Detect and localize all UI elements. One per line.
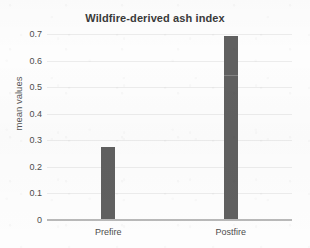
y-tick-label: 0 (37, 215, 42, 225)
y-tick-label: 0.1 (29, 188, 42, 198)
y-axis-title: mean values (13, 64, 24, 144)
gridline (47, 220, 292, 221)
chart-figure: Wildfire-derived ash index mean values 0… (0, 0, 310, 248)
gridline (47, 87, 292, 88)
plot-area: 00.10.20.30.40.50.60.7PrefirePostfire (47, 34, 292, 220)
y-tick-label: 0.7 (29, 29, 42, 39)
gridline (47, 114, 292, 115)
gridline (47, 193, 292, 194)
y-tick-label: 0.3 (29, 135, 42, 145)
chart-title: Wildfire-derived ash index (0, 12, 310, 24)
gridline (47, 167, 292, 168)
gridline (47, 140, 292, 141)
x-tick-label: Postfire (215, 227, 246, 237)
x-tick-label: Prefire (95, 227, 122, 237)
bar[interactable] (101, 147, 115, 219)
bar[interactable] (224, 36, 238, 219)
gridline (47, 34, 292, 35)
gridline (47, 61, 292, 62)
y-tick-label: 0.5 (29, 82, 42, 92)
y-tick-label: 0.4 (29, 109, 42, 119)
y-tick-label: 0.6 (29, 56, 42, 66)
y-tick-label: 0.2 (29, 162, 42, 172)
bar-segment-divider (224, 75, 238, 76)
